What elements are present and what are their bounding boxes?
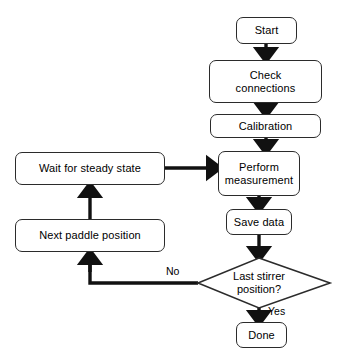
node-wait-for-steady-state-label: Wait for steady state (36, 162, 144, 175)
edge-label-no: No (166, 265, 179, 277)
node-calibration-label: Calibration (236, 120, 296, 133)
node-next-paddle-position-label: Next paddle position (36, 229, 144, 242)
node-done-label: Done (245, 329, 278, 342)
node-start-label: Start (252, 24, 282, 37)
node-save-data[interactable]: Save data (226, 209, 292, 235)
node-check-connections[interactable]: Check connections (209, 60, 322, 103)
node-next-paddle-position[interactable]: Next paddle position (15, 219, 165, 252)
node-perform-measurement-label: Perform measurement (222, 161, 296, 187)
node-save-data-label: Save data (231, 216, 287, 229)
node-done[interactable]: Done (236, 322, 287, 348)
flowchart-diagram: Start Check connections Calibration Perf… (0, 0, 340, 353)
node-perform-measurement[interactable]: Perform measurement (218, 151, 300, 196)
node-wait-for-steady-state[interactable]: Wait for steady state (15, 152, 165, 185)
edge-label-yes: Yes (268, 305, 285, 317)
node-start[interactable]: Start (236, 17, 297, 44)
edge-decision-no-to-paddle (90, 262, 198, 283)
decision-diamond (198, 258, 330, 308)
node-calibration[interactable]: Calibration (210, 114, 321, 138)
node-check-connections-label: Check connections (233, 69, 299, 95)
